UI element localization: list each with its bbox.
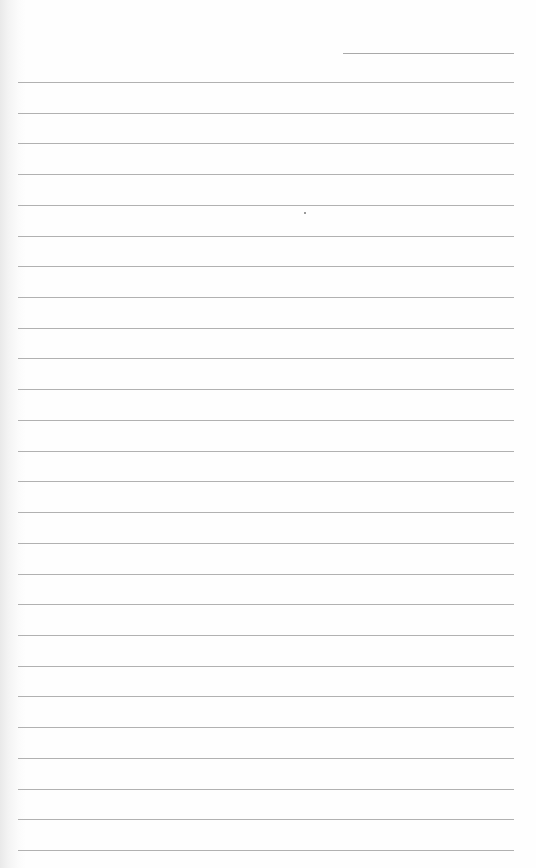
ruled-line <box>18 358 514 359</box>
ruled-line <box>18 512 514 513</box>
ruled-line <box>18 82 514 83</box>
ruled-line <box>18 174 514 175</box>
ruled-line <box>18 758 514 759</box>
ruled-line <box>18 604 514 605</box>
ruled-line <box>18 727 514 728</box>
notebook-page <box>0 0 536 868</box>
binding-edge-shadow <box>0 0 26 868</box>
ruled-line <box>18 819 514 820</box>
ruled-line <box>18 266 514 267</box>
ruled-line <box>18 481 514 482</box>
ruled-line <box>18 666 514 667</box>
ruled-line <box>18 328 514 329</box>
date-header-line <box>343 53 514 54</box>
ruled-line <box>18 389 514 390</box>
ruled-line <box>18 696 514 697</box>
ruled-line <box>18 451 514 452</box>
ruled-line <box>18 789 514 790</box>
ruled-line <box>18 113 514 114</box>
ink-dot <box>304 212 306 214</box>
ruled-line <box>18 635 514 636</box>
ruled-line <box>18 297 514 298</box>
ruled-line <box>18 205 514 206</box>
ruled-line <box>18 850 514 851</box>
ruled-line <box>18 236 514 237</box>
ruled-line <box>18 543 514 544</box>
ruled-line <box>18 143 514 144</box>
ruled-line <box>18 420 514 421</box>
ruled-line <box>18 574 514 575</box>
